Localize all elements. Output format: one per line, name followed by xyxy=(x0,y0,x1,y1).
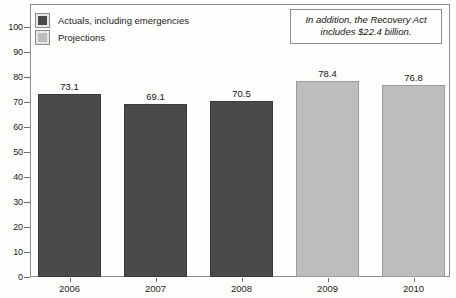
x-axis-tick-mark xyxy=(328,278,329,282)
x-axis-tick-mark xyxy=(156,278,157,282)
bar-value-label: 76.8 xyxy=(404,72,423,83)
x-axis-tick-mark xyxy=(70,278,71,282)
x-axis-tick-mark xyxy=(242,278,243,282)
y-axis-tick-mark xyxy=(24,77,30,78)
x-axis-label-2009: 2009 xyxy=(298,283,358,294)
bar-value-label: 78.4 xyxy=(318,68,337,79)
y-axis-tick-mark xyxy=(24,177,30,178)
y-axis-tick-label: 10 xyxy=(13,246,23,258)
y-axis-tick-label: 70 xyxy=(13,96,23,108)
legend-swatch-icon xyxy=(36,31,49,44)
y-axis-tick-label: 40 xyxy=(13,171,23,183)
x-axis-label-2008: 2008 xyxy=(212,283,272,294)
y-axis-tick-mark xyxy=(24,102,30,103)
y-axis: 1009080706050403020100 xyxy=(0,0,30,298)
chart-legend: Actuals, including emergenciesProjection… xyxy=(36,12,189,46)
y-axis-tick-mark xyxy=(24,202,30,203)
y-axis-tick-mark xyxy=(24,127,30,128)
bar-value-label: 73.1 xyxy=(60,81,79,92)
y-axis-tick-label: 90 xyxy=(13,46,23,58)
x-axis-tick-mark xyxy=(414,278,415,282)
legend-swatch-icon xyxy=(36,14,49,27)
x-axis-label-2010: 2010 xyxy=(384,283,444,294)
y-axis-tick-mark xyxy=(24,277,30,278)
bar-2010[interactable]: 76.8 xyxy=(382,85,445,277)
y-axis-tick-label: 60 xyxy=(13,121,23,133)
legend-item-1[interactable]: Actuals, including emergencies xyxy=(36,12,189,29)
annotation-line-1: In addition, the Recovery Act xyxy=(293,14,439,26)
bar-2006[interactable]: 73.1 xyxy=(38,94,101,277)
x-axis-label-2006: 2006 xyxy=(40,283,100,294)
y-axis-tick-mark xyxy=(24,27,30,28)
y-axis-tick-mark xyxy=(24,252,30,253)
y-axis-tick-mark xyxy=(24,227,30,228)
y-axis-tick-mark xyxy=(24,52,30,53)
annotation-line-2: includes $22.4 billion. xyxy=(293,26,439,38)
y-axis-tick-label: 30 xyxy=(13,196,23,208)
bar-value-label: 69.1 xyxy=(146,91,165,102)
bar-value-label: 70.5 xyxy=(232,88,251,99)
y-axis-tick-label: 0 xyxy=(18,271,23,283)
bar-2009[interactable]: 78.4 xyxy=(296,81,359,277)
chart-page: 1009080706050403020100 73.169.170.578.47… xyxy=(0,0,456,298)
x-axis-label-2007: 2007 xyxy=(126,283,186,294)
bar-2007[interactable]: 69.1 xyxy=(124,104,187,277)
y-axis-tick-label: 20 xyxy=(13,221,23,233)
y-axis-tick-label: 80 xyxy=(13,71,23,83)
annotation-box: In addition, the Recovery Act includes $… xyxy=(290,9,442,44)
y-axis-tick-mark xyxy=(24,152,30,153)
legend-item-label: Actuals, including emergencies xyxy=(58,15,189,26)
bar-2008[interactable]: 70.5 xyxy=(210,101,273,277)
y-axis-tick-label: 100 xyxy=(8,21,23,33)
legend-item-2[interactable]: Projections xyxy=(36,29,189,46)
legend-item-label: Projections xyxy=(58,32,105,43)
y-axis-tick-label: 50 xyxy=(13,146,23,158)
